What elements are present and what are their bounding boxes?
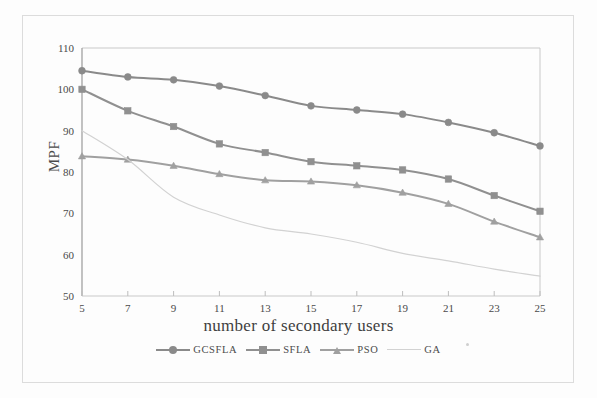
x-tick-label: 21: [443, 302, 454, 314]
legend-label: GCSFLA: [193, 344, 237, 355]
x-tick-label: 19: [397, 302, 409, 314]
legend-key-ga-icon: [387, 345, 421, 355]
legend-key-gcsfla-icon: [156, 345, 190, 355]
data-point-marker: [124, 74, 131, 81]
x-tick-label: 17: [351, 302, 363, 314]
y-axis-label: MPF: [46, 97, 63, 217]
x-tick-label: 9: [171, 302, 177, 314]
data-point-marker: [445, 119, 452, 126]
x-tick-labels: 5791113151719212325: [79, 291, 546, 314]
series-ga: [82, 131, 540, 276]
data-point-marker: [79, 67, 86, 74]
x-tick-label: 7: [125, 302, 131, 314]
legend-entry-gcsfla: GCSFLA: [156, 344, 237, 355]
data-point-marker: [537, 208, 543, 214]
legend-entry-sfla: SFLA: [246, 344, 311, 355]
data-point-marker: [491, 192, 497, 198]
data-point-marker: [399, 167, 405, 173]
data-point-marker: [308, 102, 315, 109]
x-tick-label: 11: [214, 302, 225, 314]
data-point-marker: [79, 86, 85, 92]
y-tick-label: 90: [63, 125, 75, 137]
data-point-marker: [216, 141, 222, 147]
data-point-marker: [537, 143, 544, 150]
y-tick-label: 50: [63, 290, 75, 302]
legend-entry-pso: PSO: [320, 344, 378, 355]
x-tick-label: 15: [306, 302, 318, 314]
y-tick-label: 80: [63, 166, 75, 178]
series-gcsfla: [79, 67, 544, 149]
y-tick-label: 100: [58, 83, 75, 95]
data-point-marker: [125, 108, 131, 114]
legend-key-sfla-icon: [246, 345, 280, 355]
data-point-marker: [491, 129, 498, 136]
legend-label: SFLA: [283, 344, 311, 355]
x-tick-label: 5: [79, 302, 85, 314]
y-tick-label: 110: [58, 42, 75, 54]
data-series-group: [78, 67, 543, 276]
x-tick-label: 23: [489, 302, 501, 314]
y-tick-label: 60: [63, 249, 75, 261]
chart-legend: GCSFLASFLAPSOGA: [0, 344, 597, 355]
axis-frame: [82, 48, 540, 296]
data-point-marker: [308, 158, 314, 164]
data-point-marker: [399, 111, 406, 118]
y-tick-label: 70: [63, 207, 75, 219]
legend-label: GA: [424, 344, 440, 355]
x-axis-label: number of secondary users: [0, 316, 597, 336]
series-line: [82, 131, 540, 276]
x-tick-label: 25: [535, 302, 547, 314]
x-tick-label: 13: [260, 302, 272, 314]
legend-label: PSO: [357, 344, 378, 355]
data-point-marker: [262, 149, 268, 155]
legend-entry-ga: GA: [387, 344, 440, 355]
data-point-marker: [353, 107, 360, 114]
data-point-marker: [216, 83, 223, 90]
plot-area: 5060708090100110 5791113151719212325: [0, 0, 597, 398]
series-line: [82, 156, 540, 237]
data-point-marker: [354, 163, 360, 169]
legend-key-pso-icon: [320, 345, 354, 355]
data-point-marker: [170, 123, 176, 129]
figure-container: 5060708090100110 5791113151719212325 MPF…: [0, 0, 597, 398]
data-point-marker: [262, 92, 269, 99]
data-point-marker: [170, 76, 177, 83]
series-pso: [78, 153, 543, 240]
data-point-marker: [445, 176, 451, 182]
